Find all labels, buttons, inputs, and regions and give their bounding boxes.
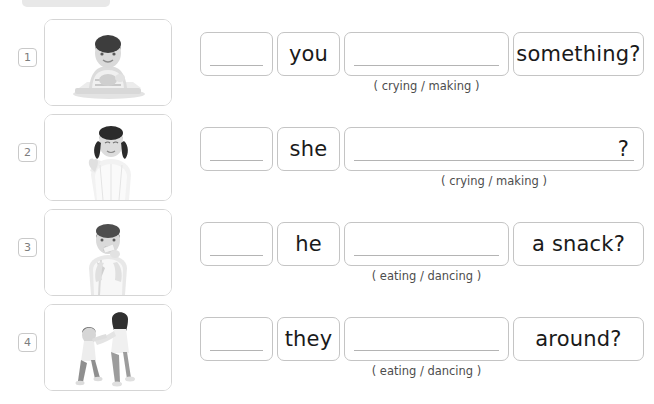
answer-box-auxiliary[interactable]	[200, 317, 273, 361]
word-choice-hint: ( crying / making )	[344, 79, 509, 93]
answer-box-verb[interactable]	[344, 222, 509, 266]
answer-box-auxiliary[interactable]	[200, 222, 273, 266]
writing-rule	[354, 65, 499, 66]
writing-rule	[354, 350, 499, 351]
row-number-badge: 1	[18, 48, 37, 67]
pronoun-text: you	[278, 42, 339, 66]
pronoun-box: you	[277, 32, 340, 76]
row-number-badge: 4	[18, 333, 37, 352]
photo-card	[44, 19, 172, 106]
word-choice-hint: ( eating / dancing )	[344, 364, 509, 378]
writing-rule	[354, 160, 634, 161]
row-number-badge: 2	[18, 143, 37, 162]
phrase-text: something?	[514, 42, 643, 66]
writing-rule	[210, 65, 263, 66]
answer-box-auxiliary[interactable]	[200, 32, 273, 76]
worksheet-row: 3	[0, 204, 654, 299]
photo-boy-at-table	[45, 20, 171, 105]
worksheet-row: 4	[0, 299, 654, 394]
pronoun-box: they	[277, 317, 340, 361]
writing-rule	[210, 160, 263, 161]
pronoun-text: she	[278, 137, 339, 161]
writing-rule	[354, 255, 499, 256]
row-number-badge: 3	[18, 238, 37, 257]
worksheet-row: 2	[0, 109, 654, 204]
writing-rule	[210, 350, 263, 351]
word-choice-hint: ( crying / making )	[344, 174, 644, 188]
phrase-text: around?	[514, 327, 643, 351]
phrase-box: around?	[513, 317, 644, 361]
phrase-box: something?	[513, 32, 644, 76]
pronoun-text: they	[278, 327, 339, 351]
answer-box-verb[interactable]	[344, 32, 509, 76]
writing-rule	[210, 255, 263, 256]
photo-card	[44, 114, 172, 201]
pronoun-box: she	[277, 127, 340, 171]
photo-girl-crying	[45, 115, 171, 200]
photo-card	[44, 209, 172, 296]
phrase-text: a snack?	[514, 232, 643, 256]
word-choice-hint: ( eating / dancing )	[344, 269, 509, 283]
answer-text: ?	[345, 137, 643, 161]
worksheet-row: 1	[0, 14, 654, 109]
answer-box-verb[interactable]	[344, 317, 509, 361]
photo-children-dancing	[45, 305, 171, 390]
phrase-box: a snack?	[513, 222, 644, 266]
answer-box-verb[interactable]: ?	[344, 127, 644, 171]
answer-box-auxiliary[interactable]	[200, 127, 273, 171]
photo-boy-eating	[45, 210, 171, 295]
pronoun-box: he	[277, 222, 340, 266]
photo-card	[44, 304, 172, 391]
worksheet-body: 1	[0, 0, 654, 404]
pronoun-text: he	[278, 232, 339, 256]
